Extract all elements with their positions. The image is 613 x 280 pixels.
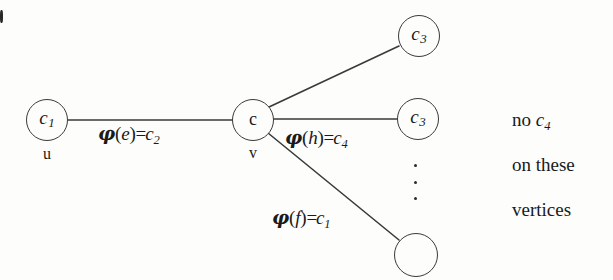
node-u: c1 <box>26 99 68 141</box>
ellipsis-dot <box>414 181 417 184</box>
equals-sign: = <box>306 207 316 228</box>
phi-symbol: φ <box>272 206 289 228</box>
ellipsis-dot <box>414 164 417 167</box>
side-note-color-subscript: 4 <box>544 119 550 133</box>
color-subscript: 2 <box>153 133 159 147</box>
figure-canvas: c1 u c v c3 c3 φ(e)=c2 φ(h)=c4 φ(f)=c1 n… <box>0 0 613 280</box>
vertical-ellipsis-icon <box>412 164 418 200</box>
edge-label-f: φ(f)=c1 <box>272 208 330 230</box>
side-note-line-1: no c4 <box>512 110 550 132</box>
node-v: c <box>232 99 274 141</box>
node-neighbor-top-color-label: c3 <box>411 24 426 47</box>
node-neighbor-bottom <box>394 233 438 277</box>
edge-label-e: φ(e)=c2 <box>98 124 160 146</box>
color-subscript: 1 <box>324 217 330 231</box>
node-v-vertex-name: v <box>232 145 274 161</box>
color-name: c <box>333 127 341 148</box>
node-neighbor-middle: c3 <box>397 98 439 140</box>
node-neighbor-top: c3 <box>398 15 440 57</box>
edge-label-h: φ(h)=c4 <box>285 128 348 150</box>
side-note-line-3: vertices <box>512 200 571 219</box>
edge-v-top-c3 <box>269 46 399 107</box>
node-neighbor-middle-color-label: c3 <box>410 107 425 130</box>
phi-symbol: φ <box>98 122 115 144</box>
equals-sign: = <box>136 123 146 144</box>
node-v-color-label: c <box>249 110 257 128</box>
node-u-color-label: c1 <box>39 108 54 131</box>
node-u-vertex-name: u <box>26 146 68 162</box>
phi-symbol: φ <box>285 126 302 148</box>
equals-sign: = <box>324 127 334 148</box>
side-note-line-2: on these <box>512 155 575 174</box>
side-note-color-name: c <box>536 109 544 130</box>
ellipsis-dot <box>414 197 417 200</box>
color-subscript: 4 <box>342 137 348 151</box>
side-note-plain-text: no <box>512 109 531 130</box>
